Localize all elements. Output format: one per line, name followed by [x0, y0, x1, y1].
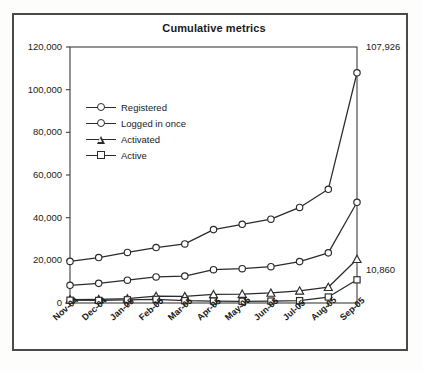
legend-marker-circle-icon — [86, 117, 116, 129]
legend-label: Activated — [121, 134, 160, 145]
y-axis-tick-label: 80,000 — [4, 126, 62, 137]
annotation-registered-final: 107,926 — [366, 41, 400, 52]
y-axis-tick-label: 100,000 — [4, 84, 62, 95]
chart-container: Cumulative metrics 020,00040,00060,00080… — [0, 0, 422, 371]
y-axis-tick-label: 120,000 — [4, 41, 62, 52]
y-axis-tick-label: 60,000 — [4, 169, 62, 180]
legend-item-logged-in-once[interactable]: Logged in once — [86, 116, 186, 130]
chart-series-logged-in-once — [67, 199, 360, 288]
chart-legend: RegisteredLogged in onceActivatedActive — [86, 100, 186, 164]
legend-marker-triangle-icon — [86, 133, 116, 145]
chart-series-registered — [67, 70, 360, 265]
y-axis-tick-label: 20,000 — [4, 254, 62, 265]
legend-item-registered[interactable]: Registered — [86, 100, 186, 114]
legend-label: Active — [121, 150, 147, 161]
annotation-active-final: 10,860 — [366, 264, 395, 275]
chart-series-activated — [66, 255, 361, 303]
legend-label: Registered — [121, 102, 167, 113]
legend-item-activated[interactable]: Activated — [86, 132, 186, 146]
legend-marker-circle-icon — [86, 101, 116, 113]
legend-item-active[interactable]: Active — [86, 148, 186, 162]
y-axis-tick-label: 40,000 — [4, 212, 62, 223]
legend-label: Logged in once — [121, 118, 186, 129]
y-axis-tick-label: 0 — [4, 297, 62, 308]
legend-marker-square-icon — [86, 149, 116, 161]
